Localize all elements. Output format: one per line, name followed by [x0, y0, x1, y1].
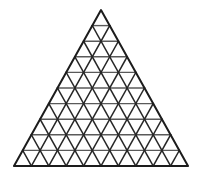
triangular-grid-diagram [0, 0, 203, 176]
figure-root [0, 0, 203, 176]
